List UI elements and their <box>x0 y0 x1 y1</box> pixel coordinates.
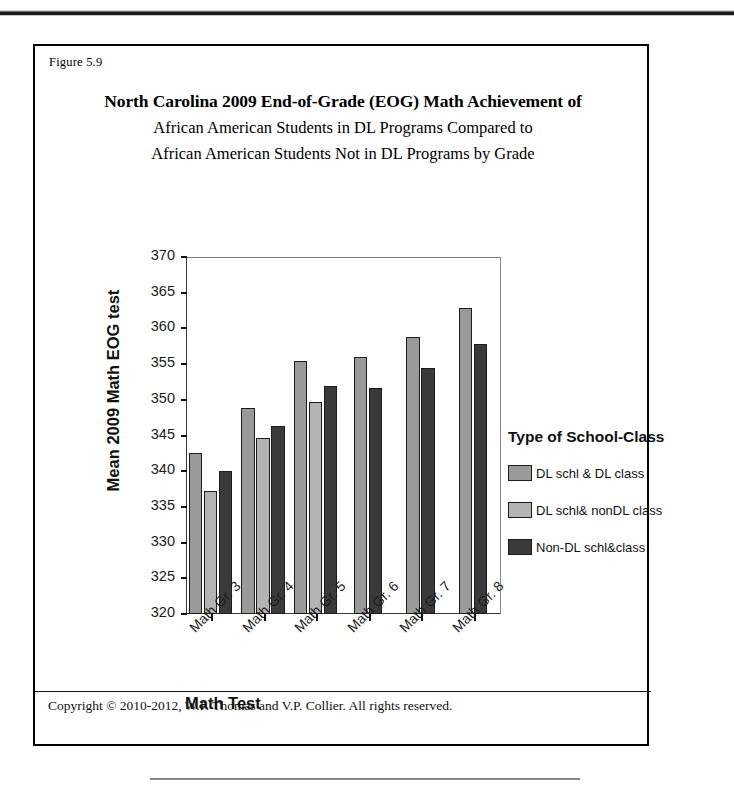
y-axis-tick-label: 360 <box>127 318 175 334</box>
copyright-notice: Copyright © 2010-2012, W.P. Thomas and V… <box>48 698 452 714</box>
legend-swatch-icon <box>508 539 532 555</box>
bar-math-gr-7-series-2 <box>421 368 435 614</box>
legend-item-label: DL schl & DL class <box>536 466 644 481</box>
scan-bottom-edge-artifact <box>150 778 580 780</box>
y-axis-tick-label: 345 <box>127 426 175 442</box>
bar-math-gr-8-series-2 <box>474 344 488 614</box>
y-axis-tick <box>181 327 187 329</box>
bar-math-gr-3-series-0 <box>189 453 203 614</box>
legend-item-label: DL schl& nonDL class <box>536 503 662 518</box>
legend-item: Non-DL schl&class <box>508 539 658 555</box>
bar-math-gr-7-series-0 <box>406 337 420 614</box>
figure-title-line-2: African American Students in DL Programs… <box>35 115 651 141</box>
legend-item: DL schl & DL class <box>508 465 658 481</box>
bar-math-gr-6-series-0 <box>354 357 368 614</box>
footer-divider <box>35 691 651 692</box>
bar-math-gr-6-series-2 <box>369 388 383 614</box>
bar-math-gr-5-series-1 <box>309 402 323 614</box>
legend-items: DL schl & DL classDL schl& nonDL classNo… <box>508 465 658 555</box>
legend-swatch-icon <box>508 502 532 518</box>
y-axis-tick-label: 350 <box>127 390 175 406</box>
y-axis-tick-label: 325 <box>127 568 175 584</box>
figure-title-line-3: African American Students Not in DL Prog… <box>35 141 651 167</box>
scan-top-edge-line <box>0 13 734 15</box>
y-axis-tick <box>181 506 187 508</box>
y-axis-tick-label: 355 <box>127 354 175 370</box>
figure-frame: Figure 5.9 North Carolina 2009 End-of-Gr… <box>33 44 649 746</box>
legend-item: DL schl& nonDL class <box>508 502 658 518</box>
bar-math-gr-5-series-0 <box>294 361 308 614</box>
y-axis-tick <box>181 256 187 258</box>
legend-title: Type of School-Class <box>508 428 658 446</box>
chart-legend: Type of School-Class DL schl & DL classD… <box>508 428 658 576</box>
y-axis-tick <box>181 613 187 615</box>
y-axis-title: Mean 2009 Math EOG test <box>104 261 123 521</box>
y-axis-tick <box>181 577 187 579</box>
figure-title: North Carolina 2009 End-of-Grade (EOG) M… <box>35 88 651 167</box>
y-axis-tick-label: 365 <box>127 283 175 299</box>
y-axis-tick <box>181 292 187 294</box>
y-axis-tick-label: 330 <box>127 533 175 549</box>
figure-title-line-1: North Carolina 2009 End-of-Grade (EOG) M… <box>35 88 651 115</box>
y-axis-tick-label: 370 <box>127 247 175 263</box>
bar-math-gr-4-series-1 <box>256 438 270 614</box>
bar-math-gr-8-series-0 <box>459 308 473 614</box>
bar-chart: 320325330335340345350355360365370 Math G… <box>35 206 651 716</box>
figure-number-label: Figure 5.9 <box>49 55 102 70</box>
bars-layer <box>186 257 501 614</box>
y-axis-tick-label: 340 <box>127 461 175 477</box>
y-axis-tick <box>181 470 187 472</box>
legend-swatch-icon <box>508 465 532 481</box>
bar-math-gr-4-series-0 <box>241 408 255 614</box>
y-axis-tick-label: 320 <box>127 604 175 620</box>
y-axis-tick <box>181 542 187 544</box>
y-axis-tick <box>181 435 187 437</box>
legend-item-label: Non-DL schl&class <box>536 540 645 555</box>
y-axis-tick <box>181 399 187 401</box>
y-axis-tick <box>181 363 187 365</box>
y-axis-tick-label: 335 <box>127 497 175 513</box>
